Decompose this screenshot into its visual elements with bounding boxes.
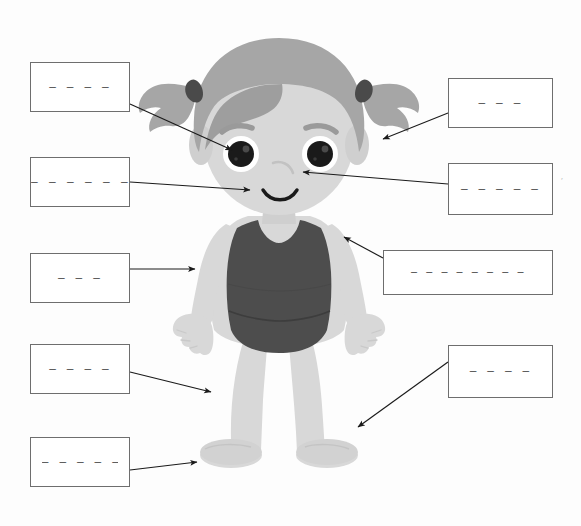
answer-box-left-1[interactable]: — — — — <box>30 62 130 112</box>
arrow-to-foot-right <box>358 362 448 427</box>
answer-box-right-1[interactable]: — — — <box>448 78 553 128</box>
worksheet-page: — — — — — — — — — — — — — — — — — — — — … <box>0 0 581 526</box>
hand-left <box>173 314 214 355</box>
answer-box-right-3[interactable]: — — — — — — — — <box>383 250 553 295</box>
foot-left <box>200 439 262 468</box>
stray-pen-mark: ′ <box>561 176 563 186</box>
figure-body <box>139 38 419 468</box>
answer-blank-line: — — — — <box>42 82 118 93</box>
foot-right <box>296 439 358 468</box>
answer-box-right-2[interactable]: — — — — — <box>448 163 553 215</box>
answer-box-right-4[interactable]: — — — — <box>448 345 553 398</box>
answer-blank-line: — — — — — <box>42 457 118 468</box>
answer-box-left-2[interactable]: — — — — — — <box>30 157 130 207</box>
answer-blank-line: — — — — <box>42 364 118 375</box>
answer-blank-line: — — — — — <box>460 184 540 195</box>
answer-blank-line: — — — — <box>460 366 540 377</box>
answer-box-left-5[interactable]: — — — — — <box>30 437 130 487</box>
answer-box-left-3[interactable]: — — — <box>30 253 130 303</box>
answer-blank-line: — — — <box>460 98 540 109</box>
answer-blank-line: — — — <box>42 273 118 284</box>
arrow-to-foot-left <box>130 462 197 470</box>
hand-right <box>345 314 386 355</box>
arrow-to-leg-left <box>130 372 211 392</box>
answer-blank-line: — — — — — — — — <box>391 268 546 278</box>
answer-box-left-4[interactable]: — — — — <box>30 344 130 394</box>
eye-right <box>302 136 338 172</box>
answer-blank-line: — — — — — — <box>31 177 129 188</box>
eye-left <box>223 136 259 172</box>
